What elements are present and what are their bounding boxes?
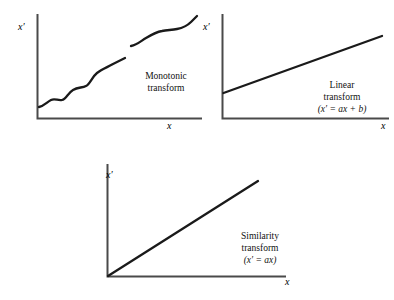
y-axis-label-linear: x′ xyxy=(203,22,210,32)
x-axis-label-similarity: x xyxy=(285,277,289,287)
x-axis-label-linear: x xyxy=(381,121,385,131)
caption-linear-line2: transform xyxy=(296,91,388,103)
caption-similarity-line1: Similarity xyxy=(216,230,304,242)
similarity-plot xyxy=(100,164,290,286)
caption-similarity: Similarity transform (x′ = ax) xyxy=(216,230,304,266)
caption-similarity-line2: transform xyxy=(216,242,304,254)
caption-linear: Linear transform (x′ = ax + b) xyxy=(296,79,388,115)
caption-linear-equation: (x′ = ax + b) xyxy=(296,103,388,115)
caption-linear-line1: Linear xyxy=(296,79,388,91)
monotonic-curve-segment-2 xyxy=(131,16,197,46)
caption-monotonic-line1: Monotonic xyxy=(124,70,208,82)
y-axis-label-similarity: x′ xyxy=(106,170,113,180)
panel-similarity xyxy=(100,164,290,286)
caption-similarity-equation: (x′ = ax) xyxy=(216,254,304,266)
caption-monotonic-line2: transform xyxy=(124,82,208,94)
y-axis-label-monotonic: x′ xyxy=(18,22,25,32)
x-axis-label-monotonic: x xyxy=(167,121,171,131)
monotonic-curve-segment-1 xyxy=(39,58,125,107)
caption-monotonic: Monotonic transform xyxy=(124,70,208,94)
transform-figure: x′ x Monotonic transform x′ x Linear tra… xyxy=(0,0,394,300)
